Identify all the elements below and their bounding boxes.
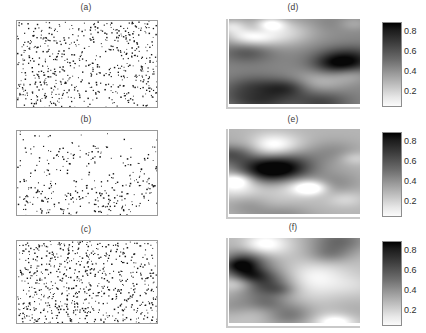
colorbar-tick-d-3: 0.2: [404, 87, 417, 96]
panel-label-f: (f): [228, 222, 358, 232]
axis-line-bottom-e: [226, 217, 360, 219]
panel-label-b: (b): [16, 114, 156, 124]
panel-title-f: (f): [228, 222, 358, 234]
axis-line-bottom-d: [226, 107, 360, 109]
panel-label-d: (d): [228, 2, 358, 12]
point-pattern-panel-b: [16, 130, 158, 216]
figure-canvas: (a) (d) 0.8 0.6 0.4 0.2 (b) (e) 0.8: [0, 0, 426, 333]
raster-panel-e: [226, 129, 360, 219]
colorbar-tick-f-3: 0.2: [404, 306, 417, 315]
colorbar-labels-d: 0.8 0.6 0.4 0.2: [404, 22, 426, 105]
colorbar-e: [382, 132, 402, 217]
colorbar-tick-f-2: 0.4: [404, 286, 417, 295]
panel-title-e: (e): [228, 114, 358, 126]
raster-image-f: [229, 238, 360, 323]
point-pattern-canvas-a: [17, 21, 157, 107]
axis-line-left-d: [226, 19, 228, 107]
colorbar-tick-f-0: 0.8: [404, 246, 417, 255]
raster-panel-d: [226, 19, 360, 109]
point-pattern-panel-a: [16, 20, 158, 108]
raster-image-d: [229, 19, 360, 104]
colorbar-tick-e-2: 0.4: [404, 177, 417, 186]
raster-canvas-f: [229, 238, 360, 323]
colorbar-tick-e-3: 0.2: [404, 197, 417, 206]
axis-line-left-e: [226, 129, 228, 217]
panel-label-c: (c): [16, 224, 156, 234]
point-pattern-panel-c: [16, 240, 158, 324]
raster-image-e: [229, 129, 360, 214]
colorbar-labels-e: 0.8 0.6 0.4 0.2: [404, 132, 426, 215]
colorbar-labels-f: 0.8 0.6 0.4 0.2: [404, 241, 426, 324]
colorbar-f: [382, 241, 402, 326]
colorbar-tick-f-1: 0.6: [404, 266, 417, 275]
point-pattern-canvas-c: [17, 241, 157, 323]
raster-canvas-e: [229, 129, 360, 214]
colorbar-tick-d-2: 0.4: [404, 67, 417, 76]
raster-panel-f: [226, 238, 360, 328]
panel-label-a: (a): [16, 2, 156, 12]
panel-title-c: (c): [16, 224, 156, 236]
panel-title-d: (d): [228, 2, 358, 14]
panel-label-e: (e): [228, 114, 358, 124]
colorbar-tick-e-1: 0.6: [404, 157, 417, 166]
colorbar-d: [382, 22, 402, 107]
axis-line-bottom-f: [226, 326, 360, 328]
axis-line-left-f: [226, 238, 228, 326]
colorbar-tick-e-0: 0.8: [404, 137, 417, 146]
point-pattern-canvas-b: [17, 131, 157, 215]
panel-title-a: (a): [16, 2, 156, 14]
panel-title-b: (b): [16, 114, 156, 126]
raster-canvas-d: [229, 19, 360, 104]
colorbar-tick-d-0: 0.8: [404, 27, 417, 36]
colorbar-tick-d-1: 0.6: [404, 47, 417, 56]
